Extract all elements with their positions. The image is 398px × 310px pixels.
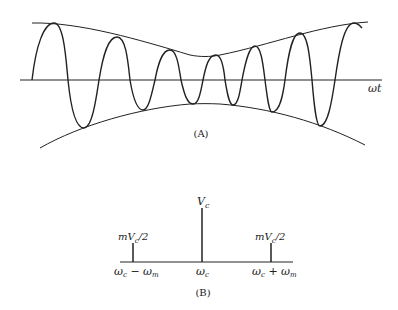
lower-envelope bbox=[40, 104, 365, 148]
modulated-carrier bbox=[32, 23, 362, 128]
upper-sideband-amplitude-label: mVc/2 bbox=[255, 231, 285, 245]
figure-a-caption: (A) bbox=[193, 128, 208, 139]
time-axis-label: ωt bbox=[368, 82, 382, 95]
figure-b-caption: (B) bbox=[195, 287, 210, 298]
upper-envelope bbox=[32, 22, 368, 57]
lower-sideband-frequency-label: ωc − ωm bbox=[114, 265, 159, 279]
am-diagram: ωt (A) Vc mVc/2 mVc/2 ωc − ωm ωc ωc + ωm… bbox=[0, 0, 398, 310]
upper-sideband-frequency-label: ωc + ωm bbox=[252, 265, 297, 279]
carrier-amplitude-label: Vc bbox=[197, 195, 210, 210]
lower-sideband-amplitude-label: mVc/2 bbox=[118, 231, 148, 245]
carrier-frequency-label: ωc bbox=[196, 265, 209, 279]
